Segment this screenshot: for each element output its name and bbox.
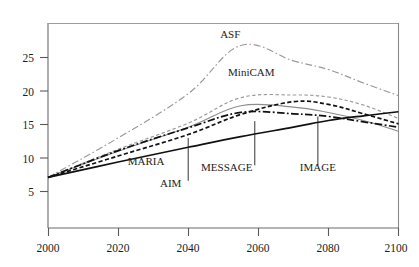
y-label-20: 20 <box>23 86 35 98</box>
x-label-2060: 2060 <box>247 242 270 254</box>
series-label-message: MESSAGE <box>201 161 253 173</box>
series-label-image: IMAGE <box>300 161 336 173</box>
y-label-25: 25 <box>23 52 35 64</box>
y-label-15: 15 <box>23 119 35 131</box>
x-label-2100: 2100 <box>385 242 408 254</box>
x-label-2080: 2080 <box>317 242 340 254</box>
x-label-2040: 2040 <box>177 242 200 254</box>
chart-background <box>0 0 419 267</box>
series-label-minicam: MiniCAM <box>228 66 275 78</box>
series-label-aim: AIM <box>160 177 182 189</box>
x-label-2020: 2020 <box>107 242 130 254</box>
chart-container: Gigatons of carbon 25 20 15 10 5 <box>0 0 419 267</box>
series-label-asf: ASF <box>220 28 240 40</box>
line-chart-svg: 25 20 15 10 5 2000 2020 2040 2060 2080 2… <box>0 0 419 267</box>
y-label-5: 5 <box>28 186 34 198</box>
x-label-2000: 2000 <box>37 242 60 254</box>
y-label-10: 10 <box>23 153 35 165</box>
series-label-maria: MARIA <box>128 155 165 167</box>
